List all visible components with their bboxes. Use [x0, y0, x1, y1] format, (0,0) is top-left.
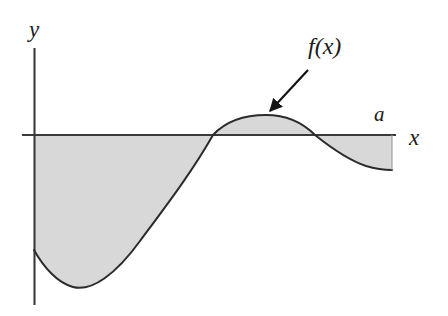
shaded-region-negative-left	[34, 135, 213, 288]
upper-limit-label: a	[374, 104, 385, 125]
function-graph-figure: y x a f(x)	[0, 0, 448, 316]
shaded-area-group	[34, 115, 392, 288]
function-label: f(x)	[308, 34, 341, 58]
shaded-region-positive-middle	[213, 115, 315, 135]
function-callout-arrow	[270, 70, 308, 111]
graph-canvas	[0, 0, 448, 316]
y-axis-label: y	[29, 18, 39, 41]
shaded-region-negative-right	[315, 135, 392, 170]
x-axis-label: x	[409, 126, 419, 149]
